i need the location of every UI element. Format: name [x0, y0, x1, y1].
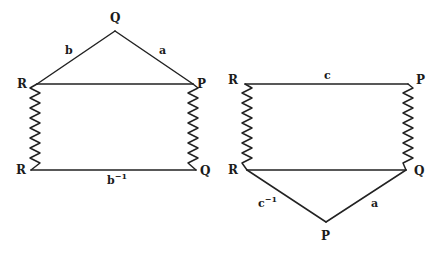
right-vertex-q-bottom: Q [414, 164, 424, 178]
left-zigzag-right [188, 84, 198, 170]
left-edge-label-b: b [65, 44, 73, 57]
right-edge-c-inverse [247, 170, 326, 222]
left-vertex-r-top: R [17, 77, 28, 91]
diagram-canvas: Q R P R Q b a b−1 R P R Q P c c−1 a [0, 0, 442, 254]
left-vertex-q-apex: Q [110, 11, 120, 25]
left-vertex-r-bottom: R [16, 163, 27, 177]
right-edge-label-a: a [371, 197, 378, 210]
right-zigzag-left [242, 84, 252, 170]
left-figure: Q R P R Q b a b−1 [16, 11, 210, 187]
left-zigzag-left [30, 84, 40, 170]
right-edge-label-c-inverse-sup: −1 [265, 194, 277, 204]
right-edge-label-c: c [324, 69, 331, 82]
right-vertex-p-apex: P [321, 229, 330, 243]
left-edge-a [115, 31, 193, 84]
right-figure: R P R Q P c c−1 a [228, 69, 425, 243]
left-edge-label-b-inverse: b−1 [107, 171, 127, 187]
left-vertex-q-bottom: Q [200, 164, 210, 178]
right-vertex-r-top: R [228, 73, 239, 87]
left-edge-b [37, 31, 115, 84]
right-zigzag-right [403, 84, 413, 170]
left-edge-label-a: a [159, 44, 166, 57]
left-vertex-p-top: P [197, 77, 206, 91]
right-vertex-p-top: P [416, 73, 425, 87]
left-edge-label-b-inverse-sup: −1 [115, 171, 127, 181]
right-vertex-r-bottom: R [228, 163, 239, 177]
right-edge-a [326, 170, 406, 222]
right-edge-label-c-inverse: c−1 [258, 194, 277, 210]
